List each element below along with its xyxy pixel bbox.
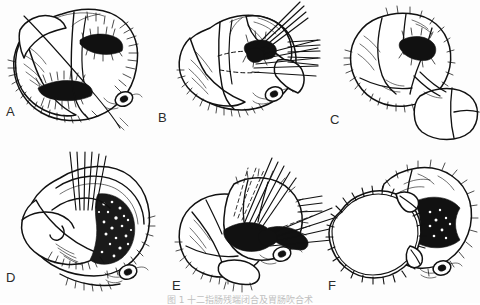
panel-c-drawing xyxy=(320,0,480,145)
panel-label-f: F xyxy=(328,278,336,293)
panel-label-e: E xyxy=(172,278,181,293)
suture-tails-overflow-2 xyxy=(296,196,324,218)
panel-e-drawing xyxy=(160,150,335,295)
panel-b: B xyxy=(150,0,320,140)
panel-b-drawing xyxy=(150,0,320,140)
panel-c: C xyxy=(320,0,480,145)
panel-label-d: D xyxy=(6,270,15,285)
panel-d-drawing xyxy=(0,148,175,293)
panel-label-a: A xyxy=(6,104,15,119)
panel-a-drawing xyxy=(0,0,160,140)
panel-d: D xyxy=(0,148,175,293)
suture-tails-overflow xyxy=(286,40,326,70)
panel-e: E xyxy=(160,150,335,295)
figure-caption: 图 1 十二指肠残端闭合及胃肠吹合术 xyxy=(0,295,480,305)
panel-label-c: C xyxy=(330,112,339,127)
panel-label-b: B xyxy=(158,110,167,125)
panel-a: A xyxy=(0,0,160,140)
panel-f: F xyxy=(318,150,480,295)
panel-f-drawing xyxy=(318,150,480,295)
